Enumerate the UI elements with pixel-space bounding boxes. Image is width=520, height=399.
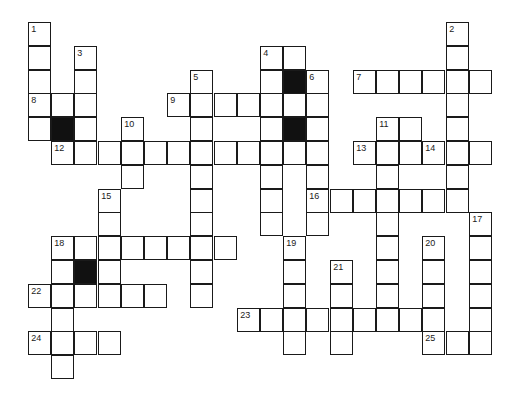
grid-cell[interactable]	[376, 212, 399, 236]
grid-cell[interactable]	[446, 141, 469, 165]
grid-cell[interactable]	[190, 189, 213, 213]
grid-cell[interactable]: 20	[422, 236, 445, 260]
grid-cell[interactable]	[306, 117, 329, 141]
grid-cell[interactable]	[237, 141, 260, 165]
grid-cell[interactable]	[260, 165, 283, 189]
grid-cell[interactable]	[422, 308, 445, 332]
grid-cell[interactable]	[190, 141, 213, 165]
grid-cell[interactable]: 2	[446, 22, 469, 46]
grid-cell[interactable]	[51, 284, 74, 308]
grid-cell[interactable]: 22	[28, 284, 51, 308]
grid-cell[interactable]	[51, 260, 74, 284]
grid-cell[interactable]	[260, 70, 283, 94]
grid-cell[interactable]	[306, 212, 329, 236]
grid-cell[interactable]	[214, 141, 237, 165]
grid-cell[interactable]	[469, 331, 492, 355]
grid-cell[interactable]	[190, 284, 213, 308]
grid-cell[interactable]	[422, 284, 445, 308]
grid-cell[interactable]: 5	[190, 70, 213, 94]
grid-cell[interactable]	[74, 117, 97, 141]
grid-cell[interactable]: 25	[422, 331, 445, 355]
grid-cell[interactable]	[74, 141, 97, 165]
grid-cell[interactable]: 23	[237, 308, 260, 332]
grid-cell[interactable]: 6	[306, 70, 329, 94]
grid-cell[interactable]: 19	[283, 236, 306, 260]
grid-cell[interactable]	[376, 308, 399, 332]
grid-cell[interactable]	[28, 117, 51, 141]
grid-cell[interactable]	[260, 117, 283, 141]
grid-cell[interactable]	[51, 308, 74, 332]
grid-cell[interactable]	[190, 236, 213, 260]
grid-cell[interactable]	[283, 93, 306, 117]
grid-cell[interactable]	[399, 308, 422, 332]
grid-cell[interactable]: 15	[98, 189, 121, 213]
grid-cell[interactable]	[98, 331, 121, 355]
grid-cell[interactable]	[469, 70, 492, 94]
grid-cell[interactable]	[469, 260, 492, 284]
grid-cell[interactable]	[446, 46, 469, 70]
grid-cell[interactable]	[306, 165, 329, 189]
grid-cell[interactable]: 8	[28, 93, 51, 117]
grid-cell[interactable]	[28, 46, 51, 70]
grid-cell[interactable]	[283, 331, 306, 355]
grid-cell[interactable]	[283, 284, 306, 308]
grid-cell[interactable]: 21	[330, 260, 353, 284]
grid-cell[interactable]	[330, 189, 353, 213]
grid-cell[interactable]	[98, 141, 121, 165]
grid-cell[interactable]	[376, 165, 399, 189]
grid-cell[interactable]: 4	[260, 46, 283, 70]
grid-cell[interactable]: 16	[306, 189, 329, 213]
grid-cell[interactable]: 9	[167, 93, 190, 117]
grid-cell[interactable]	[446, 165, 469, 189]
grid-cell[interactable]	[260, 141, 283, 165]
grid-cell[interactable]	[330, 284, 353, 308]
grid-cell[interactable]	[353, 189, 376, 213]
grid-cell[interactable]	[376, 284, 399, 308]
grid-cell[interactable]	[306, 308, 329, 332]
grid-cell[interactable]	[51, 331, 74, 355]
grid-cell[interactable]	[260, 189, 283, 213]
grid-cell[interactable]	[98, 236, 121, 260]
grid-cell[interactable]	[260, 308, 283, 332]
grid-cell[interactable]	[446, 189, 469, 213]
grid-cell[interactable]	[51, 355, 74, 379]
grid-cell[interactable]	[422, 260, 445, 284]
grid-cell[interactable]	[74, 93, 97, 117]
grid-cell[interactable]	[121, 165, 144, 189]
grid-cell[interactable]	[190, 260, 213, 284]
grid-cell[interactable]	[376, 260, 399, 284]
grid-cell[interactable]	[446, 117, 469, 141]
grid-cell[interactable]	[469, 236, 492, 260]
grid-cell[interactable]	[399, 141, 422, 165]
grid-cell[interactable]	[121, 236, 144, 260]
grid-cell[interactable]: 12	[51, 141, 74, 165]
grid-cell[interactable]	[121, 141, 144, 165]
grid-cell[interactable]	[190, 212, 213, 236]
grid-cell[interactable]	[167, 236, 190, 260]
grid-cell[interactable]	[376, 236, 399, 260]
grid-cell[interactable]	[376, 141, 399, 165]
grid-cell[interactable]	[28, 70, 51, 94]
grid-cell[interactable]	[353, 308, 376, 332]
grid-cell[interactable]	[399, 70, 422, 94]
grid-cell[interactable]	[306, 141, 329, 165]
grid-cell[interactable]	[144, 236, 167, 260]
grid-cell[interactable]: 24	[28, 331, 51, 355]
grid-cell[interactable]	[98, 260, 121, 284]
grid-cell[interactable]	[283, 46, 306, 70]
grid-cell[interactable]: 3	[74, 46, 97, 70]
grid-cell[interactable]	[283, 260, 306, 284]
grid-cell[interactable]: 14	[422, 141, 445, 165]
grid-cell[interactable]	[260, 212, 283, 236]
grid-cell[interactable]	[283, 141, 306, 165]
grid-cell[interactable]	[283, 308, 306, 332]
grid-cell[interactable]	[237, 93, 260, 117]
grid-cell[interactable]	[98, 284, 121, 308]
grid-cell[interactable]	[330, 331, 353, 355]
grid-cell[interactable]: 17	[469, 212, 492, 236]
grid-cell[interactable]	[469, 308, 492, 332]
grid-cell[interactable]	[51, 93, 74, 117]
grid-cell[interactable]	[144, 284, 167, 308]
grid-cell[interactable]	[190, 117, 213, 141]
grid-cell[interactable]	[446, 331, 469, 355]
